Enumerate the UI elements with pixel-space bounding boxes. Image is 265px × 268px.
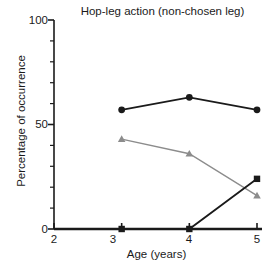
data-point-triangle-age-3 (118, 135, 126, 142)
series-line-square (122, 179, 257, 229)
data-point-triangle-age-5 (253, 192, 261, 199)
chart-figure: Hop-leg action (non-chosen leg) Percenta… (0, 0, 265, 268)
data-point-circle-age-3 (118, 106, 125, 113)
plot-area (0, 0, 265, 268)
data-point-square-age-3 (118, 226, 124, 232)
series-markers (118, 94, 261, 232)
series-line-triangle (122, 139, 257, 195)
series-lines (122, 97, 257, 229)
data-point-square-age-5 (254, 176, 260, 182)
y-axis-ticks (48, 20, 54, 229)
data-point-circle-age-5 (254, 106, 261, 113)
data-point-square-age-4 (186, 226, 192, 232)
data-point-circle-age-4 (186, 94, 193, 101)
